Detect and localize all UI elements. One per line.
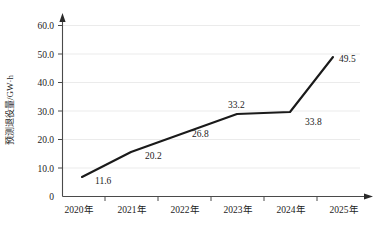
- data-label-2024: 33.8: [305, 117, 322, 127]
- y-tick-label-10: 10.0: [37, 164, 54, 174]
- x-label-2024: 2024年: [277, 204, 306, 215]
- y-tick-label-0: 0: [49, 192, 54, 202]
- x-label-2021: 2021年: [118, 204, 147, 215]
- y-tick-label-20: 20.0: [37, 135, 54, 145]
- data-label-2020: 11.6: [95, 176, 112, 186]
- data-label-2025: 49.5: [339, 54, 356, 64]
- y-tick-label-60: 60.0: [37, 21, 54, 31]
- x-label-2025: 2025年: [330, 204, 359, 215]
- x-label-2022: 2022年: [171, 204, 200, 215]
- chart-background: [0, 0, 383, 240]
- x-label-2020: 2020年: [65, 204, 94, 215]
- y-tick-label-50: 50.0: [37, 50, 54, 60]
- y-tick-label-30: 30.0: [37, 107, 54, 117]
- y-axis-title: 预测退役量/GW·h: [4, 75, 15, 145]
- data-label-2023: 33.2: [228, 100, 245, 110]
- chart-container: 60.0 50.0 40.0 30.0 20.0 10.0 0 预测退役量/GW…: [0, 0, 383, 240]
- y-tick-label-40: 40.0: [37, 78, 54, 88]
- line-chart: 60.0 50.0 40.0 30.0 20.0 10.0 0 预测退役量/GW…: [0, 0, 383, 240]
- x-label-2023: 2023年: [224, 204, 253, 215]
- data-label-2021: 20.2: [145, 151, 162, 161]
- data-label-2022: 26.8: [192, 129, 209, 139]
